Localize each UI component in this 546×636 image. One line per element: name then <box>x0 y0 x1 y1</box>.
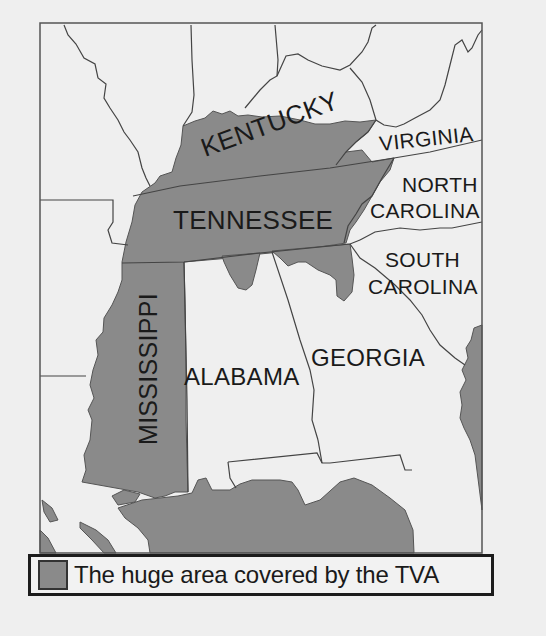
label-south-carolina-2: CAROLINA <box>368 275 478 298</box>
legend-label: The huge area covered by the TVA <box>74 561 439 589</box>
label-north-carolina-2: CAROLINA <box>370 199 480 222</box>
tva-map: KENTUCKY VIRGINIA TENNESSEE NORTH CAROLI… <box>0 0 546 636</box>
label-tennessee: TENNESSEE <box>173 205 333 235</box>
label-mississippi: MISSISSIPPI <box>134 293 162 445</box>
label-north-carolina-1: NORTH <box>402 173 478 196</box>
map-legend: The huge area covered by the TVA <box>28 554 494 596</box>
label-alabama: ALABAMA <box>184 363 299 390</box>
gray-square-swatch-icon <box>38 560 68 590</box>
label-south-carolina-1: SOUTH <box>385 248 460 271</box>
label-georgia: GEORGIA <box>311 344 425 371</box>
